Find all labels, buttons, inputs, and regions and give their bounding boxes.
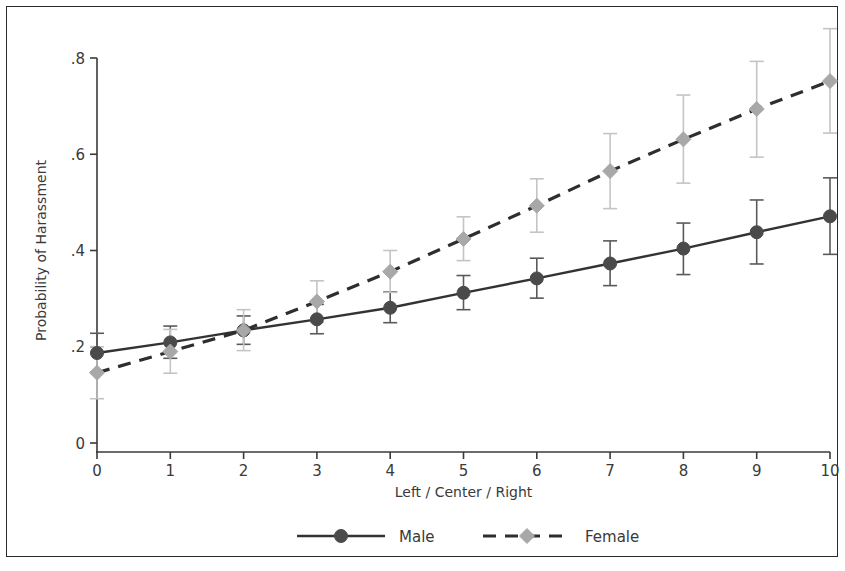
- legend-marker-female: [520, 529, 535, 544]
- legend-label-female: Female: [585, 528, 639, 546]
- x-axis-tick-label: 5: [459, 462, 469, 480]
- data-point-male: [457, 286, 470, 299]
- axis-labels-group: Left / Center / RightProbability of Hara…: [33, 159, 533, 500]
- data-point-female: [749, 102, 764, 117]
- x-axis-title: Left / Center / Right: [395, 484, 533, 500]
- y-axis-tick-label: 0: [75, 435, 85, 453]
- y-axis-tick-label: .8: [71, 50, 85, 68]
- data-point-male: [750, 226, 763, 239]
- error-bars-group: [90, 29, 837, 399]
- y-axis-tick-label: .2: [71, 338, 85, 356]
- x-axis-tick-label: 6: [532, 462, 542, 480]
- y-axis-title: Probability of Harassment: [33, 159, 49, 341]
- data-point-female: [309, 294, 324, 309]
- y-axis-tick-label: .4: [71, 242, 85, 260]
- x-axis-tick-label: 1: [166, 462, 176, 480]
- x-axis-tick-label: 0: [92, 462, 102, 480]
- data-point-female: [603, 164, 618, 179]
- data-point-male: [604, 257, 617, 270]
- legend-marker-male: [335, 530, 348, 543]
- x-axis-tick-label: 4: [385, 462, 395, 480]
- data-point-male: [91, 347, 104, 360]
- data-point-male: [824, 210, 837, 223]
- y-axis-tick-label: .6: [71, 146, 85, 164]
- data-point-female: [456, 231, 471, 246]
- x-axis-tick-label: 7: [605, 462, 615, 480]
- chart-canvas: 0.2.4.6.8012345678910 Left / Center / Ri…: [0, 0, 845, 571]
- data-point-female: [236, 323, 251, 338]
- data-point-male: [530, 272, 543, 285]
- data-point-male: [310, 313, 323, 326]
- data-point-male: [384, 301, 397, 314]
- x-axis-tick-label: 9: [752, 462, 762, 480]
- chart-figure: 0.2.4.6.8012345678910 Left / Center / Ri…: [0, 0, 845, 571]
- data-point-female: [90, 365, 105, 380]
- axes-group: 0.2.4.6.8012345678910: [71, 50, 840, 481]
- data-point-female: [529, 198, 544, 213]
- legend-label-male: Male: [399, 528, 435, 546]
- data-point-female: [823, 74, 838, 89]
- data-point-male: [677, 242, 690, 255]
- legend-group: MaleFemale: [297, 528, 639, 546]
- data-point-female: [676, 132, 691, 147]
- x-axis-tick-label: 8: [679, 462, 689, 480]
- x-axis-tick-label: 10: [820, 462, 839, 480]
- data-point-female: [383, 264, 398, 279]
- x-axis-tick-label: 2: [239, 462, 249, 480]
- x-axis-tick-label: 3: [312, 462, 322, 480]
